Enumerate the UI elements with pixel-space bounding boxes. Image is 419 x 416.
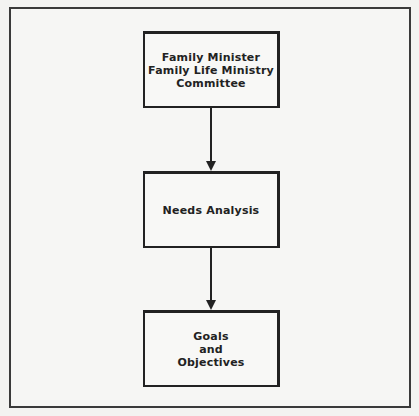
arrow-line-1 xyxy=(210,108,212,162)
node-label-line: Committee xyxy=(176,77,246,90)
arrow-head-down-icon xyxy=(206,300,216,310)
node-label-line: Goals xyxy=(193,330,228,343)
node-label-line: Objectives xyxy=(177,356,244,369)
node-label-line: Needs Analysis xyxy=(163,204,260,217)
arrow-line-2 xyxy=(210,248,212,301)
node-label-line: and xyxy=(199,343,223,356)
arrow-head-down-icon xyxy=(206,161,216,171)
node-family-minister-committee: Family Minister Family Life Ministry Com… xyxy=(143,31,280,108)
node-needs-analysis: Needs Analysis xyxy=(143,171,280,248)
node-goals-objectives: Goals and Objectives xyxy=(143,310,280,387)
node-label-line: Family Minister xyxy=(162,51,260,64)
node-label-line: Family Life Ministry xyxy=(148,64,274,77)
